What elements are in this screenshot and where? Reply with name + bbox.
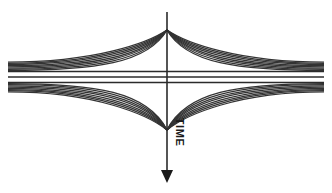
time-convergence-diagram: TIME xyxy=(0,0,332,193)
central-straight-band xyxy=(8,72,324,83)
upper-worldline-bundle xyxy=(8,30,324,71)
upper-worldline-right-6 xyxy=(167,30,324,63)
lower-worldline-bundle xyxy=(8,84,324,131)
time-axis-label: TIME xyxy=(174,118,186,147)
time-arrow-head-icon xyxy=(161,170,173,183)
figure-container: TIME xyxy=(0,0,332,193)
upper-worldline-left-6 xyxy=(8,30,167,63)
